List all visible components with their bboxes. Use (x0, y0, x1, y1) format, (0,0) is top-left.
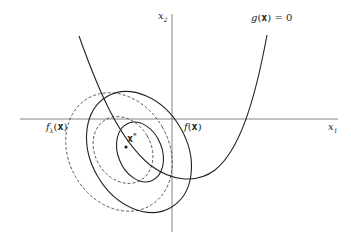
f-contour-outer (65, 73, 212, 232)
diagram-canvas: x2 x1 g(x) = 0 fλ(x) f(x) x* (0, 0, 351, 241)
optimum-sup: * (133, 132, 137, 140)
optimum-point (124, 145, 127, 148)
constraint-label: g(x) = 0 (251, 12, 292, 23)
x2-sub: 2 (164, 16, 168, 23)
f-contours (65, 73, 212, 232)
f-lambda-label: fλ(x) (46, 121, 67, 134)
x1-axis-label: x1 (328, 121, 337, 134)
f-lambda-close-paren: ) (63, 121, 67, 132)
f-close-paren: ) (198, 121, 202, 132)
f-contour-inner (108, 115, 172, 189)
f-label: f(x) (184, 121, 202, 132)
x2-axis-label: x2 (158, 10, 167, 23)
optimum-label: x* (127, 132, 137, 144)
constraint-curve (79, 35, 267, 179)
x1-sub: 1 (334, 127, 338, 134)
constraint-eq: = 0 (271, 12, 292, 23)
